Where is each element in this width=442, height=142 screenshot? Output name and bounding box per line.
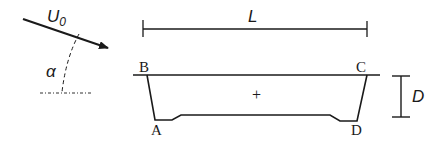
corner-label-d: D: [351, 122, 362, 138]
angle-arc: [62, 34, 79, 92]
depth-dimension: [392, 76, 410, 117]
length-label: L: [248, 7, 257, 26]
corner-label-c: C: [356, 59, 366, 75]
hull-cross-section-diagram: U0 α L B C A D + D: [0, 0, 442, 142]
centroid-marker: +: [252, 86, 261, 103]
velocity-label: U0: [47, 7, 66, 29]
angle-label: α: [46, 62, 57, 81]
corner-label-b: B: [139, 59, 149, 75]
depth-label: D: [412, 87, 424, 106]
corner-label-a: A: [151, 122, 162, 138]
